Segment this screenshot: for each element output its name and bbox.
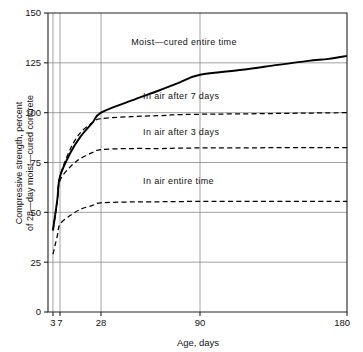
y-tick-label: 125 bbox=[25, 57, 41, 68]
series-annotation-1: In air after 7 days bbox=[143, 91, 219, 101]
x-tick-label: 28 bbox=[96, 317, 107, 328]
chart-container: 0255075100125150372890180 Moist—cured en… bbox=[0, 0, 363, 352]
x-tick-label: 90 bbox=[195, 317, 206, 328]
x-tick-label: 180 bbox=[334, 317, 350, 328]
y-axis-title-line2: of 28—day moist—cured concrete bbox=[25, 95, 35, 231]
x-tick-label: 3 bbox=[50, 317, 55, 328]
x-axis-title: Age, days bbox=[177, 337, 219, 348]
series-annotation-0: Moist—cured entire time bbox=[131, 37, 237, 47]
series-annotation-3: In air entire time bbox=[143, 176, 214, 186]
y-tick-label: 25 bbox=[30, 257, 41, 268]
y-tick-label: 0 bbox=[36, 306, 41, 317]
y-axis-title-line1: Compressive strength, percent bbox=[14, 101, 24, 224]
y-tick-label: 150 bbox=[25, 7, 41, 18]
x-tick-label: 7 bbox=[57, 317, 62, 328]
series-annotation-2: In air after 3 days bbox=[143, 127, 219, 137]
strength-vs-age-chart: 0255075100125150372890180 Moist—cured en… bbox=[0, 0, 363, 352]
